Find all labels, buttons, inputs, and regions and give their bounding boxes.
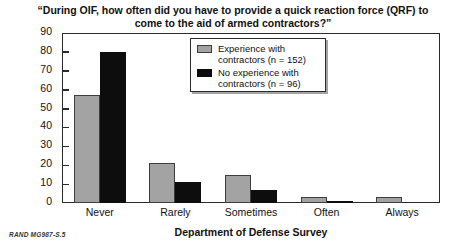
bar [327,201,353,203]
bar [251,190,277,203]
y-axis-tick-label: 50 [40,101,52,113]
legend-label-no-experience: No experience with contractors (n = 96) [218,67,301,89]
x-axis-tick-label: Often [289,206,365,218]
chart-legend: Experience with contractors (n = 152) No… [190,38,326,92]
legend-label-no-experience-line1: No experience with [218,67,299,78]
y-axis-tick-label: 90 [40,25,52,37]
y-axis-tick-label: 0 [46,195,52,207]
y-axis-tick-label: 80 [40,44,52,56]
y-axis-tick-label: 60 [40,82,52,94]
x-axis-tick-label: Never [62,206,138,218]
legend-item-no-experience: No experience with contractors (n = 96) [197,67,321,89]
x-axis-tick-label: Rarely [138,206,214,218]
bar-group [376,33,428,203]
bar-group [74,33,126,203]
y-axis-tick-label: 70 [40,63,52,75]
bar [175,182,201,203]
bar [149,163,175,203]
bar [376,197,402,203]
chart-title: “During OIF, how often did you have to p… [28,4,438,30]
y-axis-tick-label: 40 [40,119,52,131]
bar [74,95,100,203]
y-axis-tick-label: 10 [40,176,52,188]
x-axis-tick-label: Sometimes [213,206,289,218]
legend-label-experience: Experience with contractors (n = 152) [218,43,306,65]
legend-item-experience: Experience with contractors (n = 152) [197,43,321,65]
legend-label-no-experience-line2: contractors (n = 96) [218,78,301,89]
x-axis-tick-label: Always [364,206,440,218]
y-axis-tick-label: 20 [40,157,52,169]
y-axis-tick-label: 30 [40,138,52,150]
legend-label-experience-line1: Experience with [218,43,285,54]
figure-source-note: RAND MG987-S.5 [9,231,66,238]
bar [225,175,251,203]
x-axis-labels: NeverRarelySometimesOftenAlways [62,206,440,222]
legend-swatch-black [197,69,212,77]
bar [301,197,327,203]
x-axis-title: Department of Defense Survey [62,226,440,238]
bar [100,52,126,203]
legend-swatch-gray [197,45,212,53]
legend-label-experience-line2: contractors (n = 152) [218,54,306,65]
